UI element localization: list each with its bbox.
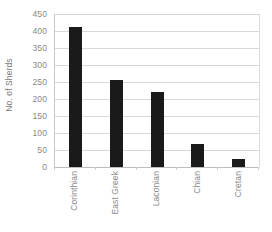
y-axis-tick-label: 450 [33, 9, 47, 19]
bar [110, 80, 123, 167]
y-axis-tick-labels: 050100150200250300350400450 [20, 0, 50, 182]
bar [232, 159, 245, 168]
x-axis-tick-mark [217, 167, 218, 170]
x-axis-category-label-text: Cretan [233, 171, 243, 197]
x-axis-category-label-text: Laconian [151, 171, 161, 206]
y-axis-tick-label: 0 [42, 162, 47, 172]
x-axis-category-label-text: Chian [192, 171, 202, 194]
bar [69, 27, 82, 167]
bar [191, 144, 204, 167]
x-axis-tick-mark [176, 167, 177, 170]
x-axis-category-labels: CorinthianEast GreekLaconianChianCretan [54, 171, 260, 232]
y-axis-tick-label: 150 [33, 111, 47, 121]
y-axis-tick-label: 350 [33, 43, 47, 53]
x-axis-tick-mark [258, 167, 259, 170]
y-axis-tick-label: 200 [33, 94, 47, 104]
y-axis-tick-label: 400 [33, 26, 47, 36]
x-axis-tick-mark [54, 167, 55, 170]
bar [151, 92, 164, 167]
y-axis-tick-label: 50 [37, 145, 47, 155]
y-axis-tick-label: 250 [33, 77, 47, 87]
bars-layer [55, 14, 259, 167]
bar-chart: No. of Sherds 05010015020025030035040045… [0, 0, 272, 232]
x-axis-tick-mark [136, 167, 137, 170]
y-axis-tick-label: 100 [33, 128, 47, 138]
x-axis-tick-mark [95, 167, 96, 170]
x-axis-category-label-text: Corinthian [69, 171, 79, 211]
x-axis-category-label-text: East Greek [110, 171, 120, 215]
y-axis-tick-label: 300 [33, 60, 47, 70]
plot-area [54, 14, 260, 167]
y-axis-title: No. of Sherds [0, 0, 18, 170]
y-axis-title-text: No. of Sherds [4, 58, 14, 111]
